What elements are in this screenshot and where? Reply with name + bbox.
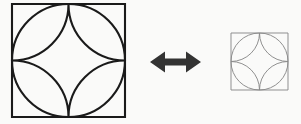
large-geometric-figure bbox=[12, 4, 125, 117]
small-geometric-figure bbox=[231, 33, 288, 90]
large-inscribed-circle bbox=[12, 4, 125, 117]
double-headed-arrow-group bbox=[150, 52, 201, 73]
diagram-canvas bbox=[0, 0, 301, 124]
double-headed-arrow-icon bbox=[150, 52, 201, 73]
geometric-diagram-svg bbox=[0, 0, 301, 124]
small-inscribed-circle bbox=[231, 33, 288, 90]
